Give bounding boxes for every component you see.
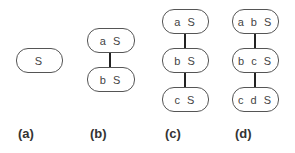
edge	[254, 73, 256, 87]
node-bcs: b c S	[232, 48, 279, 73]
node-as: a S	[162, 9, 209, 34]
node-as: a S	[87, 28, 135, 53]
edge	[184, 34, 186, 48]
caption-a: (a)	[18, 126, 34, 141]
edge	[184, 73, 186, 87]
caption-c: (c)	[165, 126, 181, 141]
caption-d: (d)	[235, 126, 252, 141]
node-abs: a b S	[232, 9, 279, 34]
node-bs: b S	[87, 67, 135, 92]
node-s: S	[16, 48, 63, 73]
edge	[254, 34, 256, 48]
node-bs: b S	[162, 48, 209, 73]
node-cs: c S	[162, 87, 209, 112]
edge	[109, 53, 111, 67]
node-cds: c d S	[232, 87, 279, 112]
caption-b: (b)	[90, 126, 107, 141]
